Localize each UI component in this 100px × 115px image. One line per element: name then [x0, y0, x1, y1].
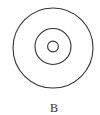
- middle-circle: [35, 29, 71, 65]
- figure-label: B: [44, 101, 64, 115]
- outer-circle: [13, 8, 93, 88]
- inner-circle: [48, 41, 59, 52]
- concentric-circles-diagram: [0, 0, 100, 115]
